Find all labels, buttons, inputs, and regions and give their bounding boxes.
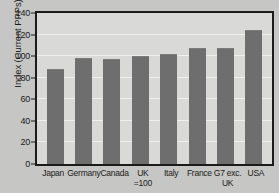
bar-slot [183,13,211,164]
bar[interactable] [245,30,262,164]
bar-slot [98,13,126,164]
plot-area [35,11,274,166]
y-tick-label: 0 [25,159,30,169]
y-tick-label: 100 [16,51,30,61]
bar[interactable] [103,59,120,164]
x-tick-label: Canada [100,168,128,188]
bar[interactable] [132,56,149,164]
bar[interactable] [75,58,92,164]
y-axis: 020406080100120140 [0,11,35,166]
x-tick-label: Japan [39,168,67,188]
x-tick-label: France [185,168,213,188]
bar-slot [41,13,69,164]
y-tick-label: 80 [20,73,30,83]
bar-slot [126,13,154,164]
bar[interactable] [47,69,64,164]
bar-slot [211,13,239,164]
x-tick-label: G7 exc.UK [214,168,242,188]
y-tick-label: 60 [20,94,30,104]
x-tick-label: Germany [67,168,100,188]
y-tick-label: 140 [16,8,30,18]
y-tick-label: 40 [20,116,30,126]
y-tick-label: 20 [20,137,30,147]
bar-slot [155,13,183,164]
bar-slot [69,13,97,164]
bar[interactable] [160,54,177,164]
x-axis-labels: JapanGermanyCanadaUK=100ItalyFranceG7 ex… [35,168,274,188]
bar-series [37,13,272,164]
y-tick-label: 120 [16,30,30,40]
bar[interactable] [189,48,206,164]
bar[interactable] [217,48,234,164]
x-tick-label: Italy [157,168,185,188]
bar-slot [240,13,268,164]
x-tick-label: USA [242,168,270,188]
bar-chart-figure: Index (Current PPPs) 020406080100120140 … [0,0,279,193]
x-tick-label: UK=100 [129,168,157,188]
